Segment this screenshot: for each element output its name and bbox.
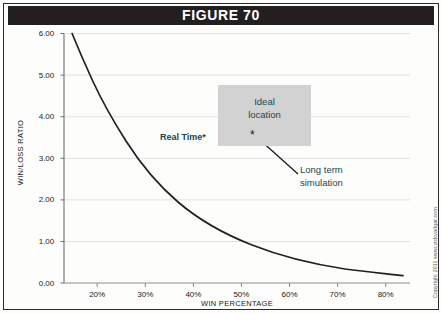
y-tick-label-3: 3.00 [20,154,54,163]
ideal-location-label: Ideallocation [218,95,311,121]
y-axis-title: WIN/LOSS RATIO [16,93,25,213]
x-axis-title: WIN PERCENTAGE [64,299,410,308]
y-tick-label-0: 0.00 [20,279,54,288]
y-tick-label-5: 5.00 [20,71,54,80]
x-tick-label-30: 30% [127,290,163,299]
real-time-label: Real Time* [160,132,220,142]
x-tick-label-50: 50% [223,290,259,299]
y-tick-label-6: 6.00 [20,29,54,38]
plot-area: Ideallocation * Real Time* Long termsimu… [0,0,442,314]
long-term-simulation-label: Long termsimulation [300,163,380,189]
chart-svg [0,0,442,314]
ideal-point-asterisk-marker: * [250,128,255,142]
x-tick-label-20: 20% [79,290,115,299]
x-tick-label-80: 80% [368,290,404,299]
x-tick-label-60: 60% [272,290,308,299]
x-tick-label-70: 70% [320,290,356,299]
winloss-ratio-curve [72,34,403,276]
y-tick-label-4: 4.00 [20,112,54,121]
copyright-notice: Copyright 2011 www.vickvadgar.com [432,188,438,298]
y-tick-label-2: 2.00 [20,195,54,204]
x-tick-label-40: 40% [175,290,211,299]
y-tick-label-1: 1.00 [20,237,54,246]
figure-container: FIGURE 70 [0,0,442,314]
x-axis-ticks [97,283,386,287]
